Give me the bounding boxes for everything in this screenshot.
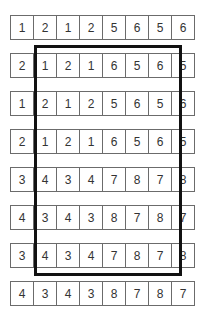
- grid-cell: 4: [33, 167, 57, 192]
- grid-cell: 5: [125, 129, 149, 154]
- grid-cell: 6: [171, 91, 195, 116]
- grid-cell: 2: [56, 129, 80, 154]
- grid-cell: 6: [148, 53, 172, 78]
- highlight-rectangle: [34, 45, 182, 276]
- grid-cell: 3: [33, 205, 57, 230]
- grid-cell: 5: [102, 91, 126, 116]
- grid-cell: 4: [10, 205, 34, 230]
- grid-cell: 8: [102, 281, 126, 306]
- grid-cell: 8: [171, 167, 195, 192]
- grid-cell: 2: [56, 53, 80, 78]
- grid-cell: 5: [148, 15, 172, 40]
- grid-cell: 3: [56, 167, 80, 192]
- grid-cell: 2: [33, 15, 57, 40]
- grid-cell: 3: [10, 167, 34, 192]
- grid-row-8: 4 3 4 3 8 7 8 7: [10, 281, 195, 306]
- grid-cell: 3: [56, 243, 80, 268]
- grid-cell: 4: [79, 243, 103, 268]
- grid-cell: 5: [125, 53, 149, 78]
- grid-row-5: 3 4 3 4 7 8 7 8: [10, 167, 195, 192]
- grid-row-2: 2 1 2 1 6 5 6 5: [10, 53, 195, 78]
- grid-cell: 7: [102, 167, 126, 192]
- grid-cell: 7: [102, 243, 126, 268]
- grid-cell: 6: [102, 53, 126, 78]
- grid-row-7: 3 4 3 4 7 8 7 8: [10, 243, 195, 268]
- grid-cell: 8: [148, 281, 172, 306]
- grid-cell: 8: [125, 243, 149, 268]
- grid-cell: 1: [56, 91, 80, 116]
- grid-cell: 3: [33, 281, 57, 306]
- grid-cell: 7: [125, 205, 149, 230]
- grid-cell: 6: [125, 15, 149, 40]
- grid-cell: 4: [33, 243, 57, 268]
- grid-cell: 8: [102, 205, 126, 230]
- grid-cell: 2: [79, 91, 103, 116]
- grid-cell: 6: [171, 15, 195, 40]
- grid-cell: 5: [171, 53, 195, 78]
- grid-cell: 2: [10, 53, 34, 78]
- grid-cell: 3: [79, 205, 103, 230]
- grid-cell: 7: [171, 205, 195, 230]
- grid-cell: 8: [148, 205, 172, 230]
- grid-cell: 7: [148, 243, 172, 268]
- grid-cell: 4: [10, 281, 34, 306]
- grid-cell: 3: [79, 281, 103, 306]
- grid-cell: 8: [171, 243, 195, 268]
- grid-cell: 1: [56, 15, 80, 40]
- grid-cell: 7: [171, 281, 195, 306]
- grid-cell: 2: [33, 91, 57, 116]
- grid-row-6: 4 3 4 3 8 7 8 7: [10, 205, 195, 230]
- grid-cell: 4: [79, 167, 103, 192]
- grid-row-3: 1 2 1 2 5 6 5 6: [10, 91, 195, 116]
- grid-cell: 1: [79, 53, 103, 78]
- grid-cell: 3: [10, 243, 34, 268]
- grid-cell: 1: [10, 15, 34, 40]
- grid-cell: 1: [79, 129, 103, 154]
- grid-cell: 6: [148, 129, 172, 154]
- grid-cell: 2: [79, 15, 103, 40]
- grid-cell: 8: [125, 167, 149, 192]
- grid-cell: 7: [148, 167, 172, 192]
- grid-cell: 5: [148, 91, 172, 116]
- grid-cell: 5: [171, 129, 195, 154]
- grid-cell: 7: [125, 281, 149, 306]
- grid-cell: 5: [102, 15, 126, 40]
- grid-cell: 1: [10, 91, 34, 116]
- grid-row-4: 2 1 2 1 6 5 6 5: [10, 129, 195, 154]
- grid-cell: 1: [33, 53, 57, 78]
- grid-cell: 2: [10, 129, 34, 154]
- grid-cell: 4: [56, 205, 80, 230]
- grid-cell: 1: [33, 129, 57, 154]
- grid-cell: 6: [125, 91, 149, 116]
- grid-cell: 4: [56, 281, 80, 306]
- grid-cell: 6: [102, 129, 126, 154]
- grid-row-1: 1 2 1 2 5 6 5 6: [10, 15, 195, 40]
